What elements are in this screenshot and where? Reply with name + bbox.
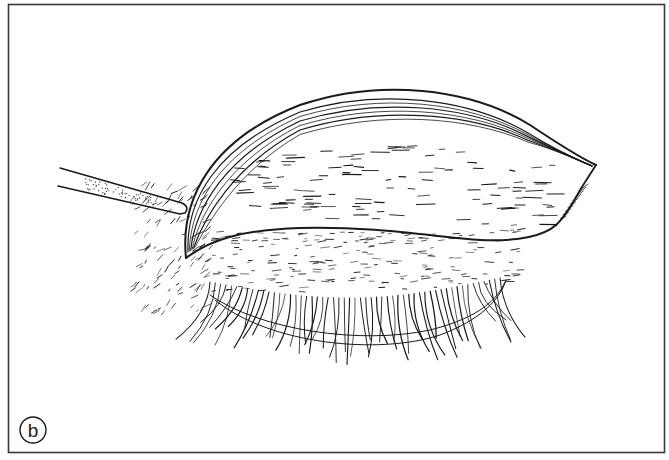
eyelash [290, 295, 296, 346]
skin-hair-stroke [209, 246, 212, 249]
skin-hair-stroke [496, 252, 501, 253]
skin-hair-stroke [372, 258, 381, 259]
skin-hair-stroke [193, 250, 195, 252]
skin-hair-stroke [201, 284, 204, 290]
skin-hair-stroke [171, 275, 174, 278]
skin-hair-stroke [249, 282, 253, 283]
conjunctiva-dash [249, 206, 260, 207]
conjunctiva-dash [235, 168, 245, 169]
everted-eyelid [185, 90, 596, 258]
conjunctiva-dash [339, 156, 354, 157]
conjunctiva-dash [237, 192, 254, 193]
skin-hair-stroke [157, 268, 161, 275]
stipple-dot [121, 196, 122, 197]
skin-hair-stroke [462, 274, 467, 275]
skin-hair-stroke [259, 290, 266, 291]
conjunctiva-dash [416, 204, 435, 205]
skin-hair-stroke [328, 265, 336, 266]
skin-hair-stroke [343, 253, 348, 254]
skin-hair-stroke [374, 264, 377, 265]
conjunctiva-dash [352, 154, 364, 155]
skin-hair-stroke [162, 204, 165, 206]
skin-hair-stroke [408, 238, 415, 239]
skin-hair-stroke [400, 276, 407, 277]
tarsal-tip [556, 165, 596, 225]
skin-hair-stroke [354, 272, 360, 273]
eyelash [323, 298, 328, 348]
stipple-dot [89, 179, 90, 180]
conjunctiva-dash [304, 209, 311, 210]
skin-hair-stroke [171, 303, 175, 308]
conjunctiva-dash [351, 159, 361, 160]
stipple-dot [90, 180, 91, 181]
skin-hair-stroke [513, 275, 520, 276]
conjunctiva-dash [344, 165, 353, 166]
conjunctiva-dash [523, 197, 542, 198]
skin-hair-stroke [229, 275, 234, 276]
skin-hair-stroke [424, 267, 428, 268]
cotton-applicator [58, 168, 187, 214]
skin-hair-stroke [231, 243, 239, 244]
panel-label: b [20, 417, 46, 443]
skin-hair-stroke [385, 242, 393, 243]
stipple-dot [129, 195, 130, 196]
skin-hair-stroke [469, 235, 474, 236]
skin-hair-stroke [155, 197, 158, 201]
skin-hair-stroke [147, 287, 149, 289]
skin-hair-stroke [154, 247, 156, 249]
stipple-dot [95, 182, 96, 183]
eyelash [176, 282, 210, 339]
stipple-dot [102, 192, 103, 193]
skin-hair-stroke [217, 231, 224, 232]
skin-hair-stroke [272, 270, 281, 271]
skin-hair-stroke [273, 232, 282, 233]
stipple-dot [85, 178, 86, 179]
skin-hair-stroke [422, 278, 431, 279]
skin-hair-stroke [177, 216, 181, 222]
stipple-dot [93, 188, 94, 189]
eyelash [304, 296, 306, 343]
stipple-dot [122, 189, 123, 190]
skin-hair-stroke [144, 284, 145, 286]
eyelid-illustration: b [0, 0, 669, 460]
skin-hair-stroke [303, 241, 307, 242]
skin-hair-stroke [135, 282, 139, 287]
conjunctiva-dash [510, 170, 515, 171]
skin-hair-stroke [158, 202, 162, 204]
eyelid-margin-bands [188, 99, 592, 252]
conjunctiva-dash [264, 182, 272, 183]
stipple-dot [119, 193, 120, 194]
skin-hair-stroke [130, 196, 134, 202]
stipple-dot [150, 197, 151, 198]
skin-hair-stroke [418, 251, 426, 252]
conjunctiva-dash [386, 179, 391, 180]
skin-hair-stroke [202, 265, 205, 269]
eyelash [334, 298, 337, 363]
stipple-dot [106, 191, 107, 192]
skin-hair-stroke [269, 260, 272, 261]
stipple-dot [138, 194, 139, 195]
eyelash [351, 298, 356, 356]
skin-hair-stroke [151, 184, 154, 188]
stipple-dot [108, 189, 109, 190]
stipple-dot [102, 187, 103, 188]
eyelash [473, 284, 495, 321]
skin-hair-stroke [179, 266, 181, 268]
tarsal-lower-edge [186, 225, 556, 258]
conjunctiva-dash [390, 215, 404, 216]
eyelash [468, 285, 481, 349]
stipple-dot [98, 190, 99, 191]
skin-hair-stroke [305, 245, 311, 246]
eyelash [484, 281, 511, 320]
conjunctiva-texture [231, 146, 565, 225]
skin-hair-stroke [280, 285, 288, 286]
conjunctiva-dash [257, 161, 265, 162]
skin-hair-stroke [433, 272, 441, 273]
stipple-dot [88, 184, 89, 185]
skin-hair-stroke [158, 308, 160, 309]
margin-band-line [191, 107, 592, 250]
stipple-dot [150, 199, 151, 200]
skin-hair-stroke [140, 266, 143, 268]
skin-hair-stroke [171, 219, 175, 224]
conjunctiva-dash [422, 180, 432, 181]
